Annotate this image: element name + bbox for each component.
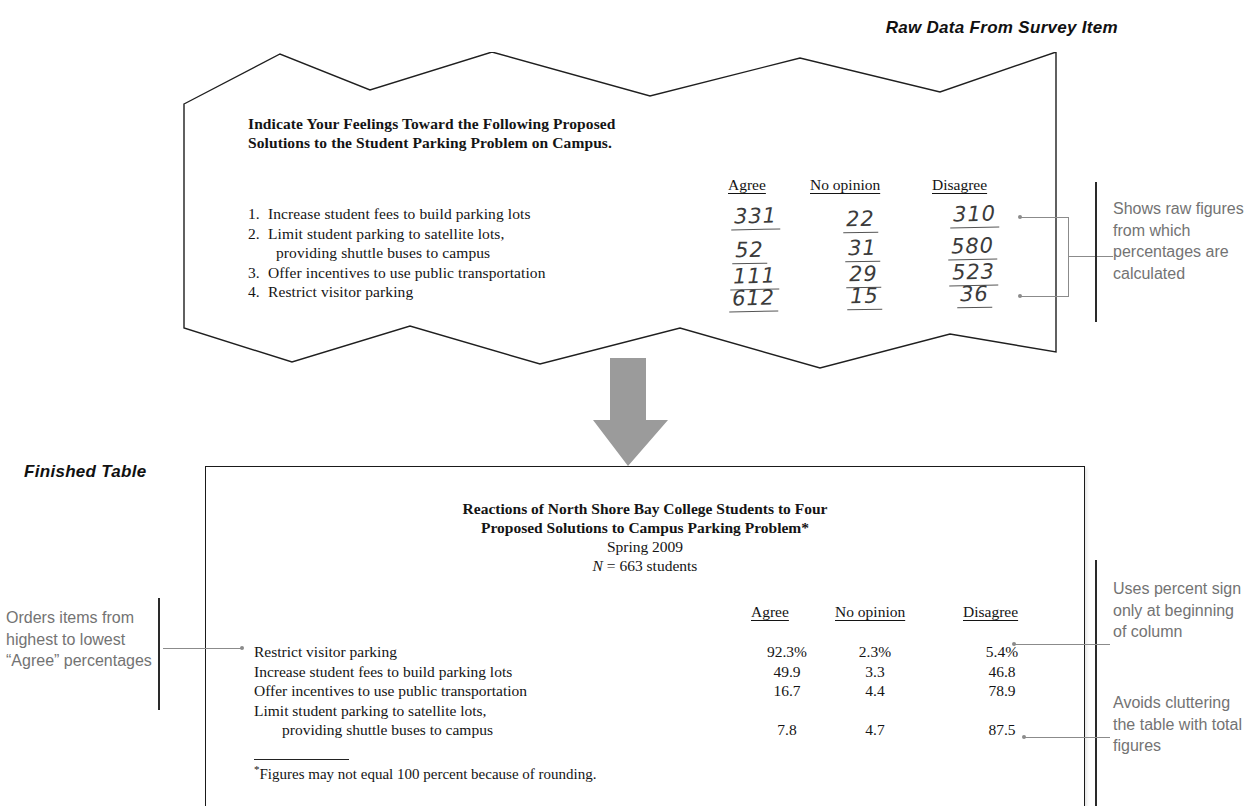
table-title-period: Spring 2009: [206, 537, 1084, 556]
table-row: Offer incentives to use public transport…: [254, 681, 1054, 701]
table-cell-agree: 49.9: [751, 662, 823, 682]
finished-table-section-label: Finished Table: [24, 462, 147, 482]
table-row-label: Offer incentives to use public transport…: [254, 681, 527, 701]
survey-item: 2.Limit student parking to satellite lot…: [248, 224, 768, 244]
table-row: Increase student fees to build parking l…: [254, 662, 1054, 682]
handwritten-count: 15: [847, 284, 882, 311]
survey-item-continuation: providing shuttle buses to campus: [248, 243, 768, 263]
handwritten-count: 52: [732, 238, 767, 265]
footnote-rule: [254, 759, 349, 760]
handwritten-count: 310: [950, 201, 1000, 228]
callout-avoids-clutter: Avoids cluttering the table with total f…: [1113, 692, 1245, 757]
table-cell-agree: 92.3%: [751, 642, 823, 662]
handwritten-count: 22: [843, 207, 878, 234]
table-column-header-agree: Agree: [751, 603, 789, 621]
survey-item: 4.Restrict visitor parking: [248, 282, 768, 302]
raw-column-header-disagree: Disagree: [932, 176, 987, 194]
handwritten-count: 331: [731, 203, 781, 230]
survey-item-text: Restrict visitor parking: [268, 283, 413, 300]
table-title-block: Reactions of North Shore Bay College Stu…: [206, 499, 1084, 575]
table-body: Restrict visitor parking 92.3% 2.3% 5.4%…: [254, 642, 1054, 740]
table-cell-disagree: 46.8: [966, 662, 1038, 682]
table-title-line-1: Reactions of North Shore Bay College Stu…: [206, 499, 1084, 518]
survey-item-number: 4.: [248, 282, 268, 302]
handwritten-count: 31: [845, 236, 880, 263]
survey-item-text: Offer incentives to use public transport…: [268, 264, 546, 281]
sample-size-symbol: N: [593, 557, 603, 574]
table-footnote: *Figures may not equal 100 percent becau…: [254, 763, 597, 783]
survey-item-list: 1.Increase student fees to build parking…: [248, 204, 768, 302]
survey-prompt: Indicate Your Feelings Toward the Follow…: [248, 114, 768, 152]
table-cell-no-opinion: 4.4: [839, 681, 911, 701]
table-row-label: Restrict visitor parking: [254, 642, 397, 662]
table-row: Limit student parking to satellite lots,: [254, 701, 1054, 721]
handwritten-count: 36: [957, 282, 992, 309]
raw-column-header-no-opinion: No opinion: [810, 176, 880, 194]
survey-item: 1.Increase student fees to build parking…: [248, 204, 768, 224]
raw-column-header-agree: Agree: [728, 176, 766, 194]
survey-item-number: 2.: [248, 224, 268, 244]
survey-prompt-line-1: Indicate Your Feelings Toward the Follow…: [248, 114, 768, 133]
handwritten-count: 612: [729, 285, 779, 312]
table-cell-agree: 16.7: [751, 681, 823, 701]
raw-data-section-label: Raw Data From Survey Item: [886, 18, 1118, 38]
table-sample-size: N = 663 students: [206, 556, 1084, 575]
footnote-text: Figures may not equal 100 percent becaus…: [260, 766, 597, 782]
table-cell-no-opinion: 2.3%: [839, 642, 911, 662]
survey-prompt-line-2: Solutions to the Student Parking Problem…: [248, 133, 768, 152]
page-gutter-rule-bottom: [1095, 560, 1097, 806]
raw-survey-paper: Indicate Your Feelings Toward the Follow…: [180, 52, 1070, 370]
table-row: Restrict visitor parking 92.3% 2.3% 5.4%: [254, 642, 1054, 662]
table-cell-disagree: 78.9: [966, 681, 1038, 701]
handwritten-count: 580: [948, 233, 998, 260]
flow-arrow-down-icon: [588, 358, 688, 468]
table-column-header-disagree: Disagree: [963, 603, 1018, 621]
survey-item-text: Increase student fees to build parking l…: [268, 205, 531, 222]
finished-table-panel: Reactions of North Shore Bay College Stu…: [205, 466, 1085, 806]
callout-raw-figures: Shows raw figures from which percentages…: [1113, 198, 1245, 284]
table-row-label: Limit student parking to satellite lots,: [254, 701, 486, 721]
table-cell-no-opinion: 3.3: [839, 662, 911, 682]
page-gutter-rule: [1095, 182, 1097, 322]
table-title-line-2: Proposed Solutions to Campus Parking Pro…: [206, 518, 1084, 537]
table-cell-agree: 7.8: [751, 720, 823, 740]
table-row-continuation: providing shuttle buses to campus 7.8 4.…: [254, 720, 1054, 740]
table-row-label: Increase student fees to build parking l…: [254, 662, 512, 682]
table-column-header-no-opinion: No opinion: [835, 603, 905, 621]
callout-orders-items: Orders items from highest to lowest “Agr…: [6, 607, 156, 672]
survey-item-number: 1.: [248, 204, 268, 224]
survey-item-text: Limit student parking to satellite lots,: [268, 225, 504, 242]
sample-size-value: = 663 students: [603, 557, 697, 574]
survey-item-number: 3.: [248, 263, 268, 283]
callout-percent-sign: Uses percent sign only at beginning of c…: [1113, 578, 1245, 643]
table-row-label-continuation: providing shuttle buses to campus: [254, 720, 493, 740]
survey-item: 3.Offer incentives to use public transpo…: [248, 263, 768, 283]
page-gutter-rule-left: [158, 598, 160, 710]
table-cell-no-opinion: 4.7: [839, 720, 911, 740]
